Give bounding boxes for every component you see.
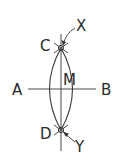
label-x: X — [76, 17, 86, 35]
label-b: B — [101, 81, 111, 99]
label-y: Y — [74, 138, 85, 156]
label-d: D — [40, 125, 52, 143]
pointer-arrow-x — [62, 28, 76, 46]
pointer-arrow-y — [63, 132, 75, 142]
label-m: M — [63, 71, 76, 89]
bisector-diagram: X C M A B D Y — [0, 0, 118, 161]
label-a: A — [12, 81, 23, 99]
label-c: C — [40, 37, 50, 55]
